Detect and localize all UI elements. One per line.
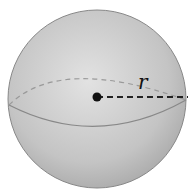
center-point: [93, 93, 102, 102]
sphere-diagram: r: [0, 0, 188, 195]
sphere-figure: [0, 0, 188, 195]
radius-label: r: [138, 70, 148, 94]
